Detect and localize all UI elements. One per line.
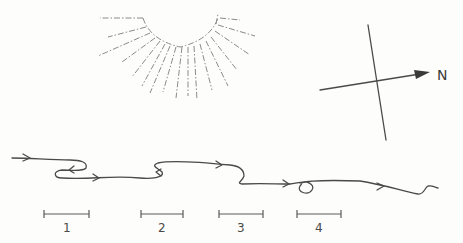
scale-bar-3	[219, 210, 263, 218]
diagram-canvas: N 1 2 3 4	[0, 0, 463, 243]
north-arrow-head-icon	[414, 70, 430, 79]
scale-bar-2	[141, 210, 183, 218]
diagram-svg: N 1 2 3 4	[0, 0, 463, 243]
north-label: N	[437, 67, 447, 83]
scale-bar-4-label: 4	[315, 221, 323, 235]
scale-bar-1	[44, 210, 89, 218]
scale-bar-2-label: 2	[158, 221, 166, 235]
direction-arrow-icon	[23, 154, 384, 190]
sun-icon	[98, 14, 255, 100]
scale-bar-3-label: 3	[237, 221, 245, 235]
track-path	[12, 154, 438, 194]
compass-icon	[320, 25, 430, 140]
scale-bar-1-label: 1	[63, 221, 71, 235]
scale-bar-4	[297, 210, 341, 218]
